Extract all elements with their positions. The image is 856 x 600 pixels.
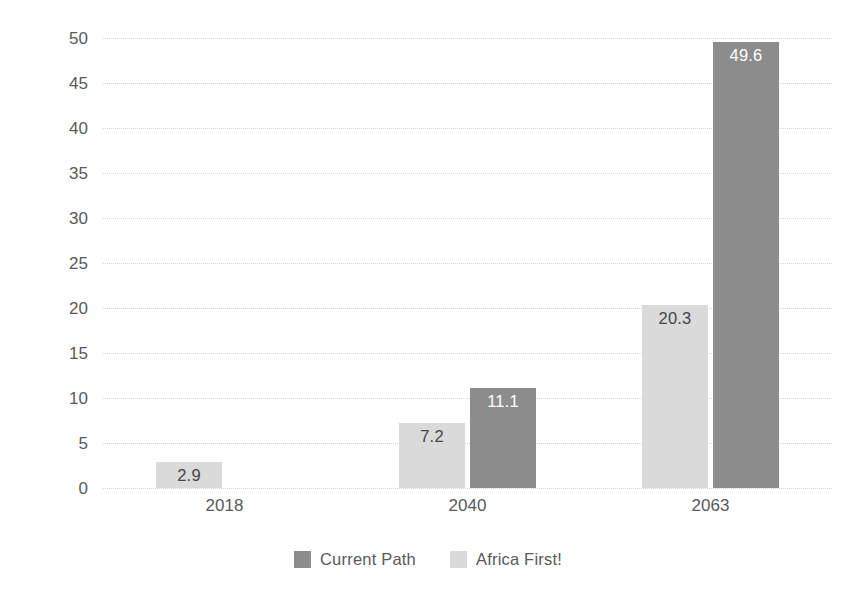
legend-item[interactable]: Current Path: [294, 550, 416, 569]
legend-item[interactable]: Africa First!: [450, 550, 562, 569]
y-tick-label: 15: [24, 345, 88, 362]
y-tick-label: 10: [24, 390, 88, 407]
bar-value-label: 11.1: [470, 392, 536, 411]
x-tick-label: 2018: [145, 496, 305, 516]
y-tick-label: 20: [24, 300, 88, 317]
bar-value-label: 7.2: [399, 427, 465, 446]
y-tick-label: 45: [24, 75, 88, 92]
plot-area: 05101520253035404550 2.97.211.120.349.6: [103, 38, 832, 488]
y-tick-label: 25: [24, 255, 88, 272]
legend-swatch-icon: [450, 551, 467, 568]
y-tick-label: 0: [24, 480, 88, 497]
bar: 20.3: [642, 305, 708, 488]
bar-chart: Trillion 2017 US$ 05101520253035404550 2…: [0, 0, 856, 600]
bars-layer: 2.97.211.120.349.6: [103, 38, 832, 488]
x-axis: 201820402063: [103, 496, 832, 524]
x-tick-label: 2063: [631, 496, 791, 516]
bar-value-label: 49.6: [713, 46, 779, 65]
bar: 2.9: [156, 462, 222, 488]
bar: 49.6: [713, 42, 779, 488]
legend-label: Current Path: [320, 550, 416, 569]
bar: 7.2: [399, 423, 465, 488]
bar-value-label: 20.3: [642, 309, 708, 328]
y-tick-label: 30: [24, 210, 88, 227]
bar: 11.1: [470, 388, 536, 488]
y-tick-label: 40: [24, 120, 88, 137]
chart-legend: Current PathAfrica First!: [0, 550, 856, 569]
x-tick-label: 2040: [388, 496, 548, 516]
gridline: [103, 488, 832, 489]
legend-swatch-icon: [294, 551, 311, 568]
bar-value-label: 2.9: [156, 466, 222, 485]
y-tick-label: 35: [24, 165, 88, 182]
y-tick-label: 50: [24, 30, 88, 47]
y-tick-label: 5: [24, 435, 88, 452]
legend-label: Africa First!: [476, 550, 562, 569]
